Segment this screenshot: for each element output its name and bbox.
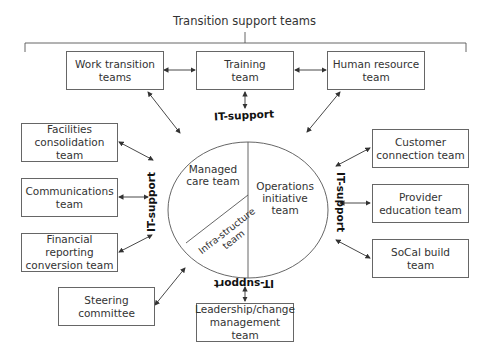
- box-label: Human resource team: [333, 58, 420, 84]
- socal-team-box: SoCal build team: [372, 239, 469, 278]
- box-label: Customer connection team: [376, 136, 464, 162]
- box-label: Financial reporting conversion team: [24, 233, 115, 272]
- box-label: Training team: [224, 58, 265, 84]
- it-support-right-label: IT-support: [335, 172, 347, 232]
- financial-team-box: Financial reporting conversion team: [21, 233, 118, 272]
- box-label: Facilities consolidation team: [24, 123, 115, 162]
- provider-team-box: Provider education team: [372, 184, 469, 223]
- box-label: Communications team: [25, 185, 113, 211]
- it-support-bottom-label: IT-support: [214, 278, 274, 290]
- customer-team-box: Customer connection team: [372, 129, 469, 168]
- managed-care-label: Managed care team: [178, 163, 248, 187]
- box-label: SoCal build team: [391, 246, 450, 272]
- facilities-team-box: Facilities consolidation team: [21, 123, 118, 162]
- leadership-team-box: Leadership/change management team: [196, 303, 294, 342]
- communications-team-box: Communications team: [21, 178, 118, 217]
- box-label: Leadership/change management team: [195, 303, 295, 342]
- steering-committee-box: Steering committee: [58, 287, 155, 326]
- box-label: Work transition teams: [75, 58, 155, 84]
- box-label: Provider education team: [379, 191, 462, 217]
- box-label: Steering committee: [78, 294, 135, 320]
- it-support-left-label: IT-support: [145, 172, 157, 232]
- human-resource-team-box: Human resource team: [327, 51, 425, 90]
- training-team-box: Training team: [196, 51, 294, 90]
- work-transition-team-box: Work transition teams: [66, 51, 164, 90]
- diagram-title: Transition support teams: [0, 14, 489, 28]
